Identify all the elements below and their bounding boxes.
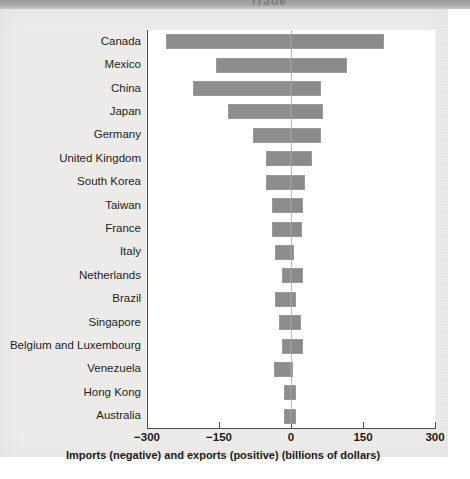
x-tick-label: −150 [206, 431, 232, 443]
category-label: Singapore [89, 317, 141, 329]
category-label: United Kingdom [59, 153, 141, 165]
bar-imports [253, 128, 291, 143]
category-label: South Korea [77, 176, 141, 188]
category-label: Netherlands [79, 270, 141, 282]
category-label: Taiwan [105, 200, 141, 212]
category-label: Hong Kong [83, 387, 141, 399]
x-tick-label: 0 [288, 431, 294, 443]
bar-imports [275, 245, 291, 260]
bar-imports [266, 151, 291, 166]
bar-exports [291, 104, 323, 119]
category-label: Italy [120, 247, 141, 259]
category-label: Germany [94, 130, 141, 142]
x-tick-label: 300 [425, 431, 444, 443]
bar-imports [274, 362, 291, 377]
page-running-head-strip: Trade [0, 0, 470, 9]
bar-exports [291, 409, 296, 424]
bar-imports [272, 198, 291, 213]
bar-exports [291, 151, 312, 166]
bar-imports [284, 409, 291, 424]
bar-imports [166, 34, 291, 49]
bar-imports [228, 104, 291, 119]
bar-exports [291, 198, 303, 213]
x-tick-mark [363, 422, 364, 429]
bar-imports [216, 58, 291, 73]
category-label: Australia [96, 411, 141, 423]
bar-exports [291, 385, 296, 400]
category-label: Mexico [105, 59, 141, 71]
bar-exports [291, 128, 321, 143]
category-label: Canada [101, 36, 141, 48]
x-tick-label: 150 [353, 431, 372, 443]
category-label: Brazil [112, 293, 141, 305]
bar-exports [291, 222, 302, 237]
bar-imports [284, 385, 291, 400]
bar-imports [282, 339, 291, 354]
bar-imports [266, 175, 291, 190]
bar-imports [272, 222, 291, 237]
x-tick-mark [147, 422, 148, 429]
bar-exports [291, 362, 293, 377]
x-tick-mark [219, 422, 220, 429]
x-tick-mark [435, 422, 436, 429]
bar-exports [291, 34, 384, 49]
x-axis-title: Imports (negative) and exports (positive… [9, 449, 437, 461]
figure-page: Trade −300−1500150300 CanadaMexicoChinaJ… [0, 0, 470, 479]
category-label: Venezuela [87, 364, 141, 376]
bar-imports [279, 315, 291, 330]
y-axis-line [147, 30, 148, 428]
bar-exports [291, 268, 303, 283]
bar-exports [291, 315, 301, 330]
category-label: China [111, 83, 141, 95]
bar-exports [291, 81, 321, 96]
bar-imports [275, 292, 291, 307]
x-tick-label: −300 [134, 431, 160, 443]
running-head-text: Trade [250, 0, 287, 8]
bar-chart-figure: −300−1500150300 CanadaMexicoChinaJapanGe… [9, 23, 437, 448]
category-label: France [105, 223, 141, 235]
category-label: Japan [110, 106, 141, 118]
bar-imports [282, 268, 291, 283]
bar-exports [291, 245, 294, 260]
bar-imports [193, 81, 291, 96]
bar-exports [291, 292, 296, 307]
bar-exports [291, 175, 305, 190]
bar-exports [291, 339, 303, 354]
category-label: Belgium and Luxembourg [10, 340, 141, 352]
bar-exports [291, 58, 347, 73]
